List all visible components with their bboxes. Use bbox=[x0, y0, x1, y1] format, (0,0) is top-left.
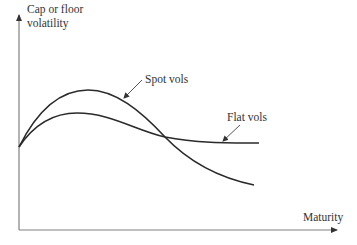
diagram-canvas bbox=[0, 0, 357, 245]
x-axis-label: Maturity bbox=[303, 211, 343, 224]
y-axis-label-line2: volatility bbox=[27, 17, 69, 30]
flat-vols-label: Flat vols bbox=[227, 111, 267, 124]
flat-vols-arrow bbox=[223, 125, 240, 141]
spot-vols-arrow bbox=[124, 80, 142, 98]
flat-vols-curve bbox=[19, 113, 259, 147]
spot-vols-curve bbox=[19, 90, 254, 185]
volatility-diagram: Cap or floor volatility Spot vols Flat v… bbox=[0, 0, 357, 245]
y-axis-label-line1: Cap or floor bbox=[27, 3, 83, 16]
spot-vols-label: Spot vols bbox=[145, 73, 188, 86]
